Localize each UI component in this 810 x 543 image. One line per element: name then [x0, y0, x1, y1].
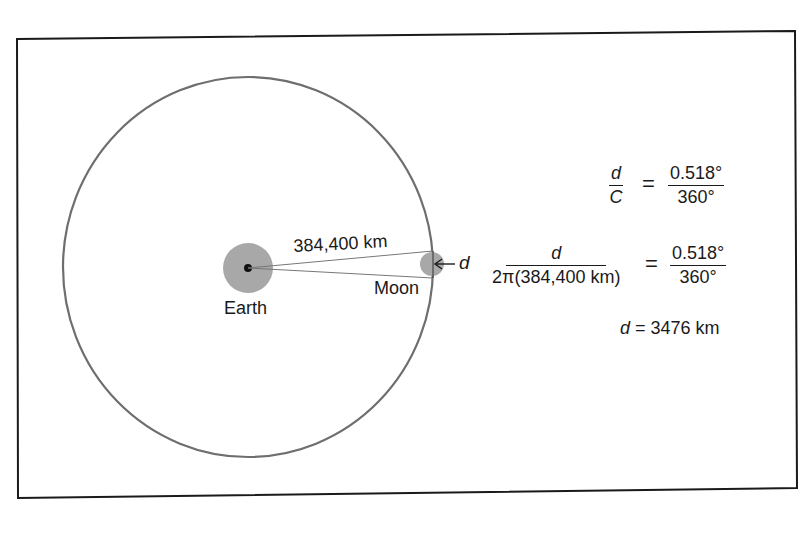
eq2-lhs-fraction: d 2π(384,400 km) — [492, 243, 620, 287]
eq2-rhs-numerator: 0.518° — [670, 243, 726, 266]
eq1-equals: = — [642, 171, 655, 197]
eq2-lhs-denominator: 2π(384,400 km) — [492, 266, 620, 287]
eq1-lhs-denominator: C — [610, 186, 623, 207]
sight-line-bottom — [248, 268, 433, 278]
result-equals: = — [630, 318, 651, 338]
eq2-equals: = — [645, 251, 658, 277]
result-variable: d — [620, 318, 630, 338]
equation-result: d = 3476 km — [620, 318, 720, 339]
eq1-rhs-fraction: 0.518° 360° — [668, 163, 724, 207]
eq1-rhs-numerator: 0.518° — [668, 163, 724, 186]
earth-label: Earth — [224, 298, 267, 319]
eq2-lhs-numerator: d — [506, 243, 606, 266]
eq1-lhs-numerator: d — [609, 163, 623, 186]
eq1-rhs-denominator: 360° — [678, 186, 715, 207]
moon-diameter-diagram: 384,400 km Earth Moon d d C = 0.518° 360… — [0, 0, 810, 543]
eq2-rhs-denominator: 360° — [680, 266, 717, 287]
eq1-lhs-fraction: d C — [609, 163, 623, 207]
moon-label: Moon — [374, 278, 419, 299]
d-marker-label: d — [459, 252, 470, 274]
eq2-rhs-fraction: 0.518° 360° — [670, 243, 726, 287]
result-value: 3476 km — [651, 318, 720, 338]
